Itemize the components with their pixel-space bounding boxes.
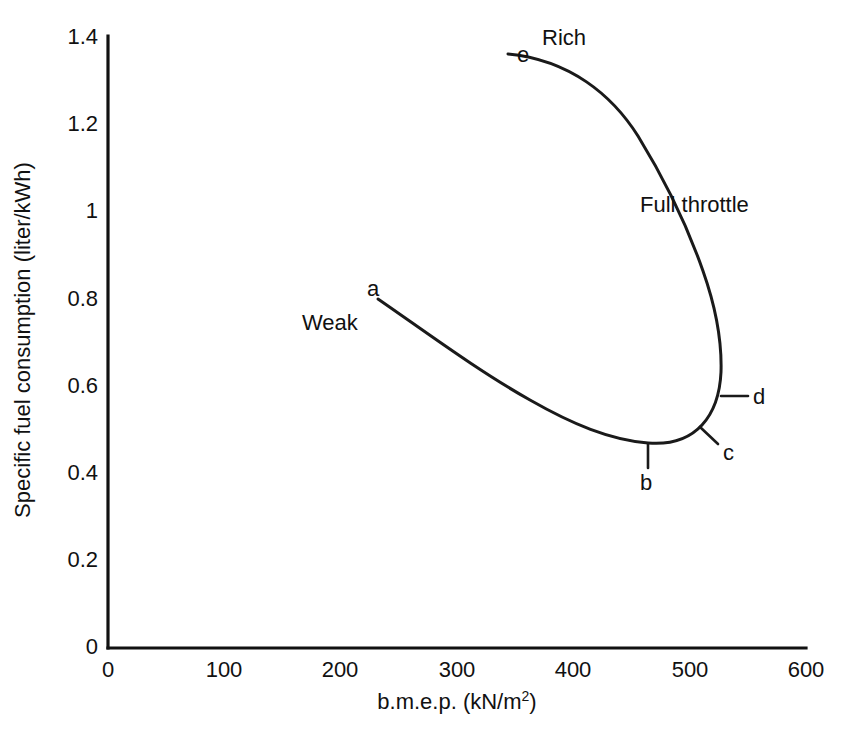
annotation-weak: Weak (302, 310, 359, 335)
figure-caption (0, 737, 843, 751)
y-tick-label: 1 (86, 198, 98, 223)
x-tick-label: 0 (102, 657, 114, 682)
x-tick-label: 400 (555, 657, 592, 682)
axes-group (108, 36, 806, 648)
x-tick-label: 300 (439, 657, 476, 682)
x-axis-title-superscript: 2 (522, 688, 530, 704)
point-labels: a b c d e (367, 42, 765, 495)
y-tick-label: 0 (86, 634, 98, 659)
point-label-c: c (723, 440, 734, 465)
y-tick-label: 1.2 (67, 111, 98, 136)
point-label-e: e (517, 42, 529, 67)
y-tick-label: 0.4 (67, 460, 98, 485)
y-tick-label: 0.6 (67, 373, 98, 398)
x-tick-label: 200 (322, 657, 359, 682)
chart-svg: 1.4 1.2 1 0.8 0.6 0.4 0.2 0 0 100 200 30… (0, 0, 843, 751)
point-label-d: d (753, 384, 765, 409)
x-tick-labels: 0 100 200 300 400 500 600 (102, 657, 824, 682)
pointer-c (700, 427, 718, 444)
annotation-rich: Rich (542, 25, 586, 50)
y-tick-label: 0.2 (67, 547, 98, 572)
y-tick-label: 0.8 (67, 286, 98, 311)
x-axis-title-main: b.m.e.p. (kN/m (377, 689, 521, 714)
fuel-consumption-curve (378, 54, 721, 443)
x-tick-label: 100 (206, 657, 243, 682)
y-tick-labels: 1.4 1.2 1 0.8 0.6 0.4 0.2 0 (67, 24, 98, 659)
x-axis-title: b.m.e.p. (kN/m2) (377, 688, 536, 714)
x-axis-title-tail: ) (529, 689, 536, 714)
annotation-full-throttle: Full throttle (640, 192, 749, 217)
figure-container: 1.4 1.2 1 0.8 0.6 0.4 0.2 0 0 100 200 30… (0, 0, 843, 751)
point-label-a: a (367, 276, 380, 301)
y-axis-title: Specific fuel consumption (liter/kWh) (10, 162, 35, 518)
x-tick-label: 600 (788, 657, 825, 682)
x-tick-label: 500 (672, 657, 709, 682)
y-tick-label: 1.4 (67, 24, 98, 49)
point-label-b: b (640, 470, 652, 495)
